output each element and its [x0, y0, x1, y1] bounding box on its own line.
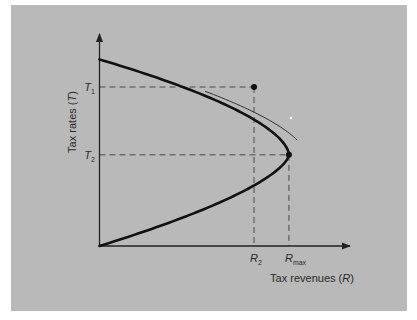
x-tick-label-rmax: Rmax: [285, 252, 307, 266]
x-axis-label: Tax revenues (R): [270, 272, 354, 284]
laffer-curve-chart: Tax rates (T) Tax revenues (R) T1T2 R2Rm…: [0, 0, 417, 320]
y-axis-label: Tax rates (T): [66, 91, 78, 153]
guide-lines: [100, 87, 289, 246]
x-tick-labels: R2Rmax: [250, 252, 307, 266]
y-tick-labels: T1T2: [84, 81, 95, 163]
y-tick-label-t1: T1: [84, 81, 95, 95]
highlight-dot: [290, 117, 292, 119]
point-t2-rmax: [286, 152, 292, 158]
y-tick-label-t2: T2: [84, 149, 95, 163]
point-t1-r2: [251, 84, 257, 90]
x-tick-label-r2: R2: [250, 252, 262, 266]
movement-arc-annotation: [205, 91, 297, 140]
axes: [100, 34, 351, 246]
